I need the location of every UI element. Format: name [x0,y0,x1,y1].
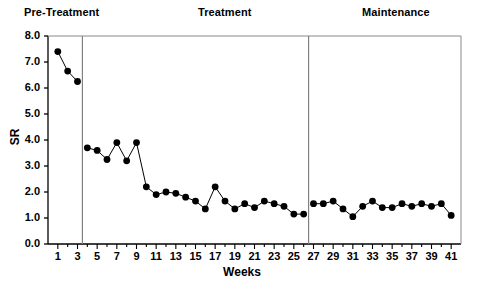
data-point [202,206,209,213]
x-tick-label: 15 [186,250,206,262]
x-tick-label: 37 [402,250,422,262]
data-point [310,200,317,207]
y-tick-label: 2.0 [14,185,40,197]
y-tick-label: 6.0 [14,81,40,93]
data-point [104,156,111,163]
x-tick-label: 11 [146,250,166,262]
x-tick-label: 13 [166,250,186,262]
data-point [231,206,238,213]
data-point [428,203,435,210]
chart-figure: Pre-Treatment Treatment Maintenance 0.01… [0,0,484,283]
data-point [133,139,140,146]
x-tick-label: 9 [127,250,147,262]
x-tick-label: 39 [422,250,442,262]
data-point [182,194,189,201]
data-point [94,147,101,154]
data-point [399,200,406,207]
data-point [408,203,415,210]
x-tick-label: 23 [264,250,284,262]
data-point [212,183,219,190]
x-tick-label: 35 [382,250,402,262]
y-tick-label: 0.0 [14,237,40,249]
data-point [300,211,307,218]
data-point [113,139,120,146]
data-point [340,206,347,213]
data-point [84,144,91,151]
data-line-segment [58,52,78,82]
data-point [438,200,445,207]
data-point [163,189,170,196]
y-axis-title: SR [8,117,22,157]
data-point [379,204,386,211]
data-point [222,198,229,205]
data-point [281,203,288,210]
data-point [261,198,268,205]
x-tick-label: 3 [68,250,88,262]
data-point [54,48,61,55]
data-point [64,68,71,75]
x-tick-label: 27 [304,250,324,262]
data-point [271,200,278,207]
data-point [359,203,366,210]
x-tick-label: 41 [441,250,461,262]
x-tick-label: 5 [87,250,107,262]
data-point [241,200,248,207]
data-point [369,198,376,205]
y-tick-label: 8.0 [14,29,40,41]
x-tick-label: 25 [284,250,304,262]
data-point [153,191,160,198]
data-point [349,213,356,220]
data-point [290,211,297,218]
data-point [320,200,327,207]
plot-area [0,0,484,283]
y-tick-label: 3.0 [14,159,40,171]
x-tick-label: 7 [107,250,127,262]
data-point [123,157,130,164]
data-point [330,198,337,205]
data-point [418,200,425,207]
data-point [192,198,199,205]
x-tick-label: 19 [225,250,245,262]
data-point [251,204,258,211]
data-point [448,212,455,219]
x-tick-label: 33 [363,250,383,262]
y-tick-label: 1.0 [14,211,40,223]
x-tick-label: 31 [343,250,363,262]
y-tick-label: 7.0 [14,55,40,67]
x-tick-label: 1 [48,250,68,262]
x-tick-label: 29 [323,250,343,262]
x-tick-label: 21 [245,250,265,262]
data-point [172,190,179,197]
data-point [389,204,396,211]
data-point [74,78,81,85]
x-tick-label: 17 [205,250,225,262]
data-point [143,183,150,190]
x-axis-title: Weeks [0,265,484,279]
